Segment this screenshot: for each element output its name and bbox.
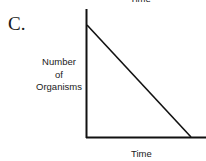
chart-plot xyxy=(0,0,206,161)
data-line xyxy=(87,25,191,137)
x-axis-label: Time xyxy=(131,148,152,159)
